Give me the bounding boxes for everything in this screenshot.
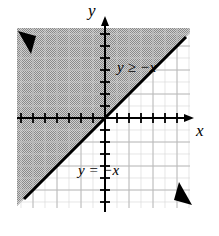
x-axis-label: x (196, 122, 204, 139)
inequality-graph-figure: y x y ≥ −x y = −x (0, 0, 219, 236)
inequality-region-label: y ≥ −x (117, 60, 156, 75)
coordinate-plane-svg (0, 0, 219, 236)
y-axis-label: y (88, 2, 96, 19)
line-equation-label: y = −x (78, 163, 119, 178)
